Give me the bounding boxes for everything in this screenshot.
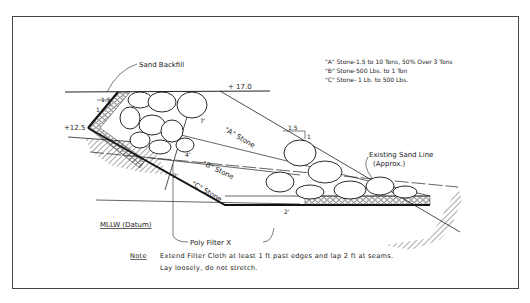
note-line-2: Lay loosely, do not stretch. xyxy=(160,264,258,272)
label-slope-right-h: 1.5 xyxy=(288,124,298,131)
label-stone-a: "A" Stone xyxy=(223,126,256,150)
legend-c-stone: "C" Stone- 1 Lb. to 500 Lbs. xyxy=(325,76,408,83)
label-thick-a2: 4' xyxy=(185,151,191,158)
label-thick-toe: 2' xyxy=(284,208,290,215)
label-slope-right-v: 1 xyxy=(307,133,311,140)
label-elev-toe: +12.5 xyxy=(64,124,85,132)
label-thick-c: 2' xyxy=(173,172,179,179)
label-existing-sand-line: Existing Sand Line xyxy=(369,151,433,159)
label-slope-left-h: 1.5 xyxy=(101,96,111,103)
label-stone-b: "B" Stone xyxy=(201,160,235,181)
sand-backfill-leader xyxy=(107,64,137,92)
label-stone-c: "C" Stone xyxy=(190,180,223,204)
a-stones-toe xyxy=(266,140,417,199)
label-sand-backfill: Sand Backfill xyxy=(139,61,184,69)
legend-a-stone: "A" Stone-1.5 to 10 Tons, 50% Over 3 Ton… xyxy=(325,58,453,65)
note-heading: Note xyxy=(130,252,147,260)
a-stones-crest xyxy=(120,92,207,154)
revetment-diagram: Sand Backfill + 17.0 +12.5 1.5 1 1.5 1 "… xyxy=(0,0,530,303)
a-stone-outer-line xyxy=(220,91,460,232)
label-existing-sand-approx: (Approx.) xyxy=(373,160,406,168)
note-line-1: Extend Filter Cloth at least 1 ft past e… xyxy=(160,252,393,260)
label-elev-top: + 17.0 xyxy=(228,83,252,91)
datum-line xyxy=(96,200,300,204)
slope-indicator-right xyxy=(283,131,305,139)
label-filter: Poly Filter X xyxy=(190,239,231,247)
label-datum: MLLW (Datum) xyxy=(100,221,152,229)
label-thick-a: 7' xyxy=(200,117,206,124)
existing-sand-leader xyxy=(366,157,372,178)
ground-top-line xyxy=(65,91,270,92)
legend-b-stone: "B" Stone-500 Lbs. to 1 Ton xyxy=(325,67,407,74)
label-slope-left-v: 1 xyxy=(96,106,100,113)
